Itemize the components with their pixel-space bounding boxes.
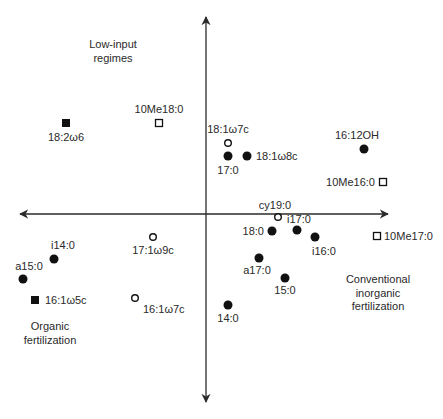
region-label-low-input: Low-inputregimes [89,38,137,64]
data-point: i17:0 [287,213,311,235]
point-label: 17:1ω9c [132,244,174,256]
filled-square-marker [31,296,39,304]
point-label: 16:1ω7c [143,303,185,315]
data-point: 18:2ω6 [48,119,84,143]
filled-circle-marker [224,152,233,161]
data-point: 16:1ω7c [132,295,185,315]
data-point: 18:1ω7c [207,123,249,146]
data-point: 14:0 [217,301,238,325]
point-label: 10Me17:0 [384,230,433,242]
filled-circle-marker [224,301,233,310]
point-label: 15:0 [274,284,295,296]
filled-circle-marker [293,226,302,235]
point-label: i16:0 [312,245,336,257]
region-label-conventional: Conventionalinorganicfertilization [346,273,410,312]
point-label: 18:1ω8c [256,150,298,162]
point-label: 16:1ω5c [45,294,87,306]
filled-circle-marker [268,227,277,236]
filled-circle-marker [243,152,252,161]
region-label-organic: Organicfertilization [24,320,77,346]
data-point: 15:0 [274,274,295,297]
point-label: 18:0 [243,225,264,237]
point-label: a15:0 [15,260,43,272]
open-square-marker [156,120,163,127]
point-label: 16:12OH [335,129,379,141]
data-point: a15:0 [15,260,43,284]
data-point: i16:0 [311,233,336,258]
open-circle-marker [275,214,282,221]
data-point: 16:1ω5c [31,294,87,306]
data-point: 10Me16:0 [326,176,386,188]
filled-circle-marker [50,255,59,264]
point-label: 18:2ω6 [48,131,84,143]
data-point: 17:1ω9c [132,234,174,256]
open-circle-marker [225,140,232,147]
data-point: 17:0 [217,152,238,177]
point-label: a17:0 [243,264,271,276]
data-point: a17:0 [243,254,271,277]
open-circle-marker [132,295,139,302]
filled-circle-marker [360,145,369,154]
open-square-marker [380,179,387,186]
ordination-diagram: Low-inputregimesConventionalinorganicfer… [0,0,443,419]
filled-square-marker [62,119,70,127]
point-label: i14:0 [51,239,75,251]
point-label: 17:0 [217,164,238,176]
open-circle-marker [150,234,157,241]
filled-circle-marker [19,275,28,284]
filled-circle-marker [255,254,264,263]
open-square-marker [374,233,381,240]
filled-circle-marker [281,274,290,283]
point-label: 14:0 [217,312,238,324]
filled-circle-marker [311,233,320,242]
data-point: 18:1ω8c [243,150,299,162]
point-label: 18:1ω7c [207,123,249,135]
biplot-canvas: Low-inputregimesConventionalinorganicfer… [0,0,443,419]
data-point: i14:0 [50,239,75,264]
data-point: 10Me18:0 [135,103,184,127]
point-label: 10Me18:0 [135,103,184,115]
data-point: 18:0 [243,225,277,237]
point-label: i17:0 [287,213,311,225]
point-label: cy19:0 [259,199,291,211]
data-point: 16:12OH [335,129,379,154]
data-point: 10Me17:0 [374,230,433,242]
point-label: 10Me16:0 [326,176,375,188]
